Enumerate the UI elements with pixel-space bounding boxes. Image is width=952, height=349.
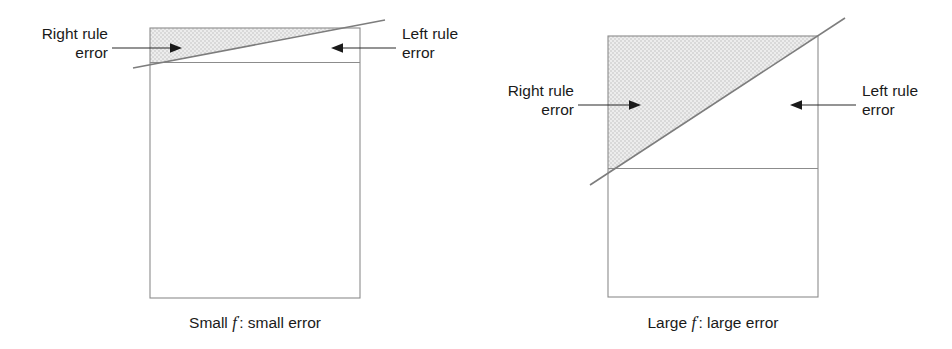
panel-small-derivative: Right rule error Left rule error Small f…: [42, 20, 458, 332]
label-right-rule-error-right-panel-line1: Right rule: [508, 82, 574, 99]
label-left-rule-error-right-panel-line2: error: [862, 101, 895, 118]
caption-right-prefix: Large: [647, 314, 691, 331]
arrowhead-left-icon: [790, 100, 802, 110]
label-right-rule-error-left-panel-line2: error: [75, 44, 108, 61]
figure-root: Right rule error Left rule error Small f…: [0, 0, 952, 349]
rectangle-outline-left-panel: [150, 28, 360, 298]
arrowhead-left-icon: [331, 43, 343, 53]
caption-left-prefix: Small: [189, 314, 232, 331]
caption-left-suffix: : small error: [239, 314, 321, 331]
arrow-left-rule-error-left-panel: [331, 43, 396, 53]
label-right-rule-error-left-panel-line1: Right rule: [42, 25, 108, 42]
label-left-rule-error-left-panel-line1: Left rule: [402, 25, 458, 42]
caption-left-panel: Small f′: small error: [189, 313, 321, 332]
caption-right-panel: Large f′: large error: [647, 313, 778, 332]
arrow-left-rule-error-right-panel: [790, 100, 856, 110]
caption-right-suffix: : large error: [698, 314, 778, 331]
label-left-rule-error-right-panel-line1: Left rule: [862, 82, 918, 99]
panel-large-derivative: Right rule error Left rule error Large f…: [508, 18, 918, 332]
label-right-rule-error-right-panel-line2: error: [541, 101, 574, 118]
label-left-rule-error-left-panel-line2: error: [402, 44, 435, 61]
figure-svg: Right rule error Left rule error Small f…: [0, 0, 952, 349]
arrow-right-rule-error-left-panel: [112, 43, 182, 53]
